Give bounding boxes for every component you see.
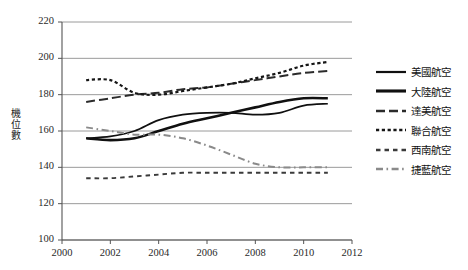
legend-swatch-5 [376, 145, 406, 155]
x-tick-label: 2010 [284, 247, 324, 258]
legend-item[interactable]: 大陸航空 [376, 82, 468, 102]
legend-label: 西南航空 [411, 142, 451, 157]
legend-item[interactable]: 達美航空 [376, 101, 468, 121]
legend-label: 捷藍航空 [411, 162, 451, 177]
legend-label: 大陸航空 [411, 84, 451, 99]
x-tick-label: 2012 [332, 247, 372, 258]
y-tick-label: 120 [20, 197, 54, 208]
legend-label: 達美航空 [411, 103, 451, 118]
y-tick-label: 220 [20, 15, 54, 26]
y-tick-label: 140 [20, 160, 54, 171]
legend-item[interactable]: 美國航空 [376, 62, 468, 82]
chart-legend: 美國航空大陸航空達美航空聯合航空西南航空捷藍航空 [376, 62, 468, 179]
y-tick-label: 200 [20, 51, 54, 62]
axis-ticks [58, 22, 352, 244]
series-lines [86, 62, 328, 178]
legend-label: 美國航空 [411, 64, 451, 79]
legend-label: 聯合航空 [411, 123, 451, 138]
legend-item[interactable]: 聯合航空 [376, 121, 468, 141]
x-tick-label: 2004 [139, 247, 179, 258]
y-tick-label: 180 [20, 88, 54, 99]
legend-swatch-1 [376, 67, 406, 77]
x-tick-label: 2006 [187, 247, 227, 258]
legend-swatch-6 [376, 164, 406, 174]
legend-swatch-3 [376, 106, 406, 116]
x-tick-label: 2008 [235, 247, 275, 258]
y-tick-label: 160 [20, 124, 54, 135]
x-tick-label: 2000 [42, 247, 82, 258]
legend-item[interactable]: 捷藍航空 [376, 160, 468, 180]
x-tick-label: 2002 [90, 247, 130, 258]
legend-swatch-2 [376, 86, 406, 96]
legend-swatch-4 [376, 125, 406, 135]
line-chart: 機位數 100120140160180200220 20002002200420… [0, 0, 468, 270]
legend-item[interactable]: 西南航空 [376, 140, 468, 160]
y-tick-label: 100 [20, 233, 54, 244]
